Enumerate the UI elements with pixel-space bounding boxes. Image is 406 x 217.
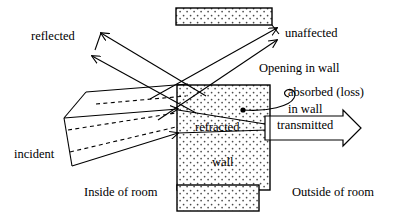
label-reflected: reflected [31, 30, 75, 43]
label-outside-of-room: Outside of room [292, 186, 374, 199]
wave-wall-diagram: reflected unaffected Opening in wall abs… [0, 0, 406, 217]
label-refracted: refracted [195, 121, 239, 134]
label-inside-of-room: Inside of room [84, 186, 158, 199]
label-unaffected: unaffected [285, 27, 338, 40]
label-absorbed: absorbed (loss) [288, 86, 364, 99]
legend-swatch [177, 185, 259, 211]
label-in-wall: in wall [288, 103, 322, 116]
label-transmitted: transmitted [277, 119, 333, 132]
label-wall: wall [212, 156, 234, 169]
wall-block [177, 85, 270, 190]
opening-block [176, 8, 272, 25]
label-opening-in-wall: Opening in wall [259, 62, 340, 75]
label-incident: incident [14, 148, 54, 161]
